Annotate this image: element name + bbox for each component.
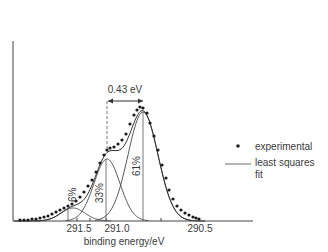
data-point [148, 121, 151, 124]
legend: experimental least squares fit [225, 141, 314, 180]
data-point [194, 216, 197, 219]
data-point [98, 161, 101, 164]
data-point [82, 190, 85, 193]
data-point [197, 217, 200, 220]
pct-label-mid: 33% [94, 183, 105, 203]
data-point [171, 197, 174, 200]
data-point [175, 204, 178, 207]
pct-label-small: 6% [67, 187, 78, 202]
data-point [42, 215, 45, 218]
xps-chart: 0.43 eV 6% 33% 61% 291.5 291.0 290.5 bin… [0, 0, 328, 252]
data-point [30, 217, 33, 220]
data-point [50, 212, 53, 215]
data-point [183, 211, 186, 214]
data-point [94, 170, 97, 173]
data-point [34, 217, 37, 220]
data-point [86, 184, 89, 187]
data-point [46, 214, 49, 217]
data-point [112, 145, 115, 148]
data-point [152, 134, 155, 137]
data-point [108, 146, 111, 149]
legend-fit-line2: fit [255, 169, 263, 180]
data-point [135, 108, 138, 111]
data-point [22, 218, 25, 221]
data-point [167, 188, 170, 191]
data-point [179, 208, 182, 211]
legend-fit-line1: least squares [255, 157, 314, 168]
data-point [38, 216, 41, 219]
experimental-points [18, 105, 200, 221]
fit-curves [14, 111, 205, 221]
data-point [160, 163, 163, 166]
data-point [58, 208, 61, 211]
legend-dot-icon [236, 144, 240, 148]
x-tick-label-3: 290.5 [187, 223, 212, 234]
data-point [18, 218, 21, 221]
separation-arrow [108, 99, 143, 104]
data-point [120, 138, 123, 141]
data-point [191, 215, 194, 218]
data-point [116, 142, 119, 145]
data-point [102, 153, 105, 156]
data-point [145, 111, 148, 114]
data-point [138, 105, 141, 108]
envelope-fit-curve [14, 111, 205, 221]
data-point [90, 178, 93, 181]
separation-label: 0.43 eV [108, 84, 143, 95]
data-point [156, 148, 159, 151]
data-point [141, 106, 144, 109]
x-tick-label-2: 291.0 [104, 223, 129, 234]
data-point [128, 122, 131, 125]
data-point [164, 176, 167, 179]
data-point [132, 113, 135, 116]
x-tick-label-1: 291.5 [66, 223, 91, 234]
data-point [54, 210, 57, 213]
data-point [62, 206, 65, 209]
data-point [26, 218, 29, 221]
data-point [124, 132, 127, 135]
legend-experimental: experimental [255, 141, 312, 152]
data-point [78, 195, 81, 198]
pct-label-big: 61% [131, 156, 142, 176]
data-point [187, 213, 190, 216]
x-axis-title: binding energy/eV [84, 236, 165, 247]
data-point [66, 204, 69, 207]
